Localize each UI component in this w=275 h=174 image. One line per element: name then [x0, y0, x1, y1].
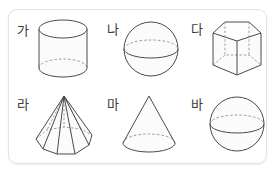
figure-label-ma: 마 — [107, 98, 119, 111]
figure-grid: 가 나 — [9, 10, 266, 163]
cone-shape — [119, 92, 179, 160]
sphere-shape-na — [121, 17, 181, 83]
pentagonal-prism-shape — [209, 17, 265, 87]
figure-cell-ba: 바 — [181, 88, 267, 165]
heptagonal-pyramid-shape — [33, 91, 95, 161]
figure-cell-ga: 가 — [9, 12, 95, 89]
figure-label-na: 나 — [107, 23, 119, 36]
figure-cell-na: 나 — [95, 12, 181, 89]
figure-label-ba: 바 — [191, 98, 203, 111]
figure-cell-da: 다 — [181, 12, 267, 89]
figure-label-da: 다 — [191, 23, 203, 36]
figure-cell-ma: 마 — [95, 88, 181, 165]
figure-label-ga: 가 — [17, 24, 29, 37]
figure-label-ra: 라 — [17, 98, 29, 111]
sphere-shape-ba — [207, 92, 267, 158]
figure-cell-ra: 라 — [9, 88, 95, 165]
cylinder-shape — [33, 18, 93, 86]
figure-panel: 가 나 — [8, 9, 267, 164]
